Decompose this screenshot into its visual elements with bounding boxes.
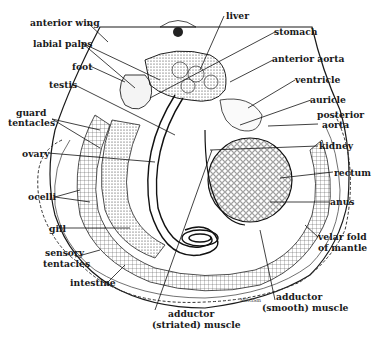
label-foot: foot — [72, 62, 92, 72]
label-sensory-tentacles-1: sensory — [45, 248, 84, 258]
diagram-drawing: MRGSm — [0, 0, 373, 340]
label-liver: liver — [226, 11, 249, 21]
artist-signature: MRGSm — [240, 297, 261, 303]
label-anus: anus — [330, 197, 355, 207]
label-posterior-aorta-2: aorta — [322, 120, 349, 130]
label-velar-fold-2: of mantle — [318, 243, 367, 253]
label-adductor-striated-1: adductor — [168, 309, 214, 319]
label-kidney: kidney — [319, 141, 353, 151]
label-anterior-wing: anterior wing — [30, 18, 100, 28]
scallop-anatomy-diagram: MRGSm anterior wing labial palps foot te… — [0, 0, 373, 340]
label-sensory-tentacles-2: tentacles — [43, 259, 90, 269]
hinge — [160, 21, 196, 38]
label-stomach: stomach — [274, 27, 318, 37]
label-intestine: intestine — [70, 278, 116, 288]
label-rectum: rectum — [334, 168, 371, 178]
foot — [120, 75, 152, 109]
label-testis: testis — [49, 80, 77, 90]
label-auricle: auricle — [310, 95, 346, 105]
label-adductor-smooth-2: (smooth) muscle — [262, 303, 348, 313]
label-ovary: ovary — [22, 149, 50, 159]
label-velar-fold-1: velar fold — [318, 232, 367, 242]
label-adductor-striated-2: (striated) muscle — [152, 320, 241, 330]
label-gill: gill — [49, 224, 66, 234]
label-guard-tentacles-2: tentacles — [8, 118, 55, 128]
label-ventricle: ventricle — [295, 75, 340, 85]
label-labial-palps: labial palps — [33, 39, 92, 49]
label-ocelli: ocelli — [28, 192, 56, 202]
label-anterior-aorta: anterior aorta — [272, 54, 344, 64]
label-adductor-smooth-1: adductor — [276, 292, 322, 302]
